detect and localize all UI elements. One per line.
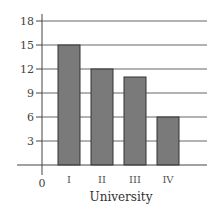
bar-chart: 369121518 IIIIIIIV 0 University	[0, 0, 217, 219]
bar	[91, 69, 113, 165]
y-tick-label: 12	[20, 63, 34, 76]
y-tick-label: 9	[27, 87, 34, 100]
x-tick-labels: IIIIIIIV	[67, 174, 174, 185]
x-tick-label: III	[129, 174, 141, 185]
x-tick-label: II	[98, 174, 106, 185]
origin-label: 0	[39, 177, 46, 190]
y-ticks: 369121518	[20, 15, 42, 148]
bar	[157, 117, 179, 165]
bars	[58, 45, 179, 165]
bar	[58, 45, 80, 165]
y-tick-label: 18	[20, 15, 34, 28]
bar	[124, 77, 146, 165]
y-tick-label: 6	[27, 111, 34, 124]
x-axis-title: University	[90, 190, 153, 204]
y-tick-label: 15	[20, 39, 34, 52]
x-tick-label: I	[67, 174, 71, 185]
x-tick-label: IV	[162, 174, 174, 185]
y-tick-label: 3	[27, 135, 34, 148]
